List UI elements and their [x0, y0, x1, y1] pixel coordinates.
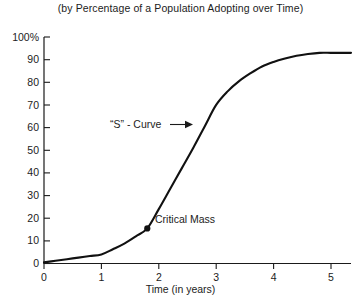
x-tick-label-1: 1 — [98, 271, 104, 283]
y-axis-ticks — [44, 37, 50, 264]
x-tick-label-5: 5 — [328, 271, 334, 283]
y-tick-label-80: 80 — [27, 76, 39, 88]
critical-mass-marker-dot — [144, 225, 150, 231]
y-tick-label-10: 10 — [27, 234, 39, 246]
x-axis-title: Time (in years) — [0, 283, 361, 296]
y-tick-label-30: 30 — [27, 189, 39, 201]
y-tick-label-70: 70 — [27, 99, 39, 111]
annotation-s-curve-label: “S” - Curve — [110, 118, 161, 130]
y-tick-label-50: 50 — [27, 144, 39, 156]
y-tick-label-90: 90 — [27, 53, 39, 65]
y-tick-label-20: 20 — [27, 212, 39, 224]
x-tick-label-0: 0 — [41, 271, 47, 283]
x-tick-label-2: 2 — [156, 271, 162, 283]
y-tick-label-40: 40 — [27, 166, 39, 178]
adoption-curve-line — [44, 53, 351, 263]
x-tick-label-4: 4 — [271, 271, 277, 283]
adoption-s-curve-chart: (by Percentage of a Population Adopting … — [0, 0, 361, 303]
x-axis-ticks — [44, 264, 331, 270]
y-tick-label-0: 0 — [33, 257, 39, 269]
annotation-arrow-icon — [170, 121, 193, 128]
x-tick-label-3: 3 — [213, 271, 219, 283]
y-tick-label-60: 60 — [27, 121, 39, 133]
chart-plot-area: 0 10 20 30 40 50 60 70 80 90 100% 0 1 2 … — [0, 0, 361, 303]
y-tick-label-100: 100% — [12, 31, 39, 43]
annotation-critical-mass-label: Critical Mass — [155, 213, 215, 225]
